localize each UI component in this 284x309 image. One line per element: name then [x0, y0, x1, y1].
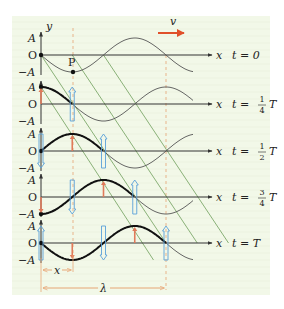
x-axis-label: x: [216, 98, 223, 111]
source-point: [39, 241, 43, 245]
period-label: T: [269, 145, 278, 158]
time-label: t = 0: [232, 49, 260, 62]
origin-label: O: [28, 145, 37, 158]
fraction-denominator: 4: [259, 106, 264, 115]
wave-diagram: v AO−Axt = 0AO−Axt = 14TAO−Axt = 12TAO−A…: [0, 0, 284, 309]
origin-label: O: [28, 49, 37, 62]
time-label: t =: [232, 145, 249, 158]
amplitude-pos-label: A: [27, 32, 36, 45]
amplitude-pos-label: A: [27, 220, 36, 233]
wavelength-label: λ: [99, 282, 107, 295]
fraction-numerator: 3: [259, 188, 264, 197]
x-axis-label: x: [216, 191, 223, 204]
point-p-marker: [71, 70, 75, 74]
amplitude-pos-label: A: [27, 128, 36, 141]
origin-label: O: [28, 191, 37, 204]
y-axis-label: y: [45, 20, 53, 33]
source-point: [39, 149, 43, 153]
amplitude-pos-label: A: [27, 174, 36, 187]
period-label: T: [269, 98, 278, 111]
fraction-denominator: 2: [259, 153, 264, 162]
period-label: T: [269, 191, 278, 204]
fraction-numerator: 1: [259, 95, 264, 104]
velocity-label: v: [170, 15, 177, 28]
x-axis-label: x: [216, 49, 223, 62]
x-axis-label: x: [216, 145, 223, 158]
time-label: t =: [232, 98, 249, 111]
time-label: t = T: [232, 237, 262, 250]
origin-label: O: [28, 237, 37, 250]
amplitude-neg-label: −A: [18, 254, 35, 267]
x-distance-label: x: [54, 264, 61, 277]
time-label: t =: [232, 191, 249, 204]
fraction-numerator: 1: [259, 142, 264, 151]
x-axis-label: x: [216, 237, 223, 250]
amplitude-neg-label: −A: [18, 115, 35, 128]
source-point: [39, 53, 43, 57]
amplitude-pos-label: A: [27, 81, 36, 94]
origin-label: O: [28, 98, 37, 111]
point-p-label: P: [68, 56, 76, 69]
amplitude-neg-label: −A: [18, 66, 35, 79]
fraction-denominator: 4: [259, 199, 264, 208]
